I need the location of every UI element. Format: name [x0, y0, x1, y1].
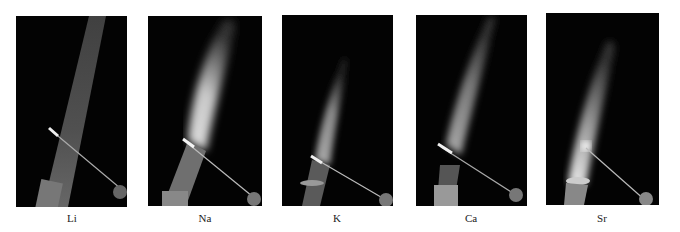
li-flame-illustration — [16, 16, 127, 207]
caption-ca: Ca — [441, 212, 501, 224]
caption-k: K — [307, 212, 367, 224]
caption-li: Li — [42, 212, 102, 224]
caption-na: Na — [175, 212, 235, 224]
photo-k-flame — [282, 15, 393, 206]
photo-sr-flame — [546, 13, 659, 205]
na-flame-illustration — [148, 16, 262, 206]
photo-li-flame — [16, 16, 127, 207]
sr-flame-illustration — [546, 13, 659, 205]
k-flame-illustration — [282, 15, 393, 206]
photo-ca-flame — [416, 15, 527, 206]
caption-sr: Sr — [572, 212, 632, 224]
ca-flame-illustration — [416, 15, 527, 206]
photo-na-flame — [148, 16, 262, 206]
